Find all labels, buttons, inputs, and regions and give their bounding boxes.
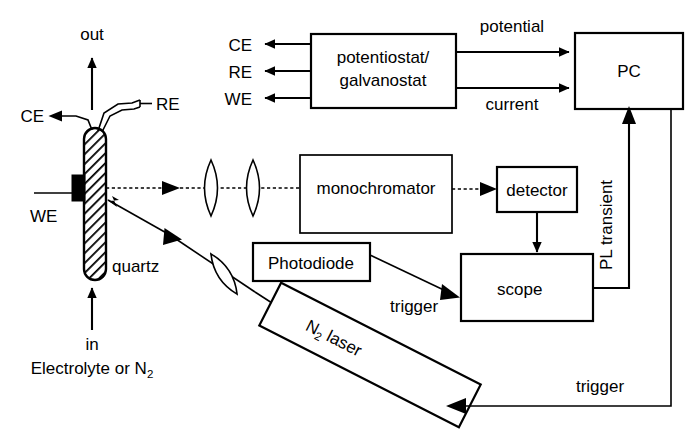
- schematic-svg: out quartz CE RE WE in Electrolyte or N2: [0, 0, 696, 440]
- potentiostat-re-label: RE: [228, 63, 252, 82]
- gas-out-label: out: [80, 25, 104, 44]
- photodiode-trigger-label: trigger: [390, 297, 439, 316]
- potentiostat-label-line1: potentiostat/: [337, 48, 430, 67]
- monochromator-label: monochromator: [316, 179, 435, 198]
- scope-label: scope: [497, 280, 542, 299]
- current-signal-label: current: [486, 95, 539, 114]
- potential-signal-label: potential: [480, 17, 544, 36]
- inlet-medium-label: Electrolyte or N2: [31, 359, 154, 380]
- inlet-medium-subscript: 2: [147, 368, 153, 380]
- figure-canvas: out quartz CE RE WE in Electrolyte or N2: [0, 0, 696, 440]
- potentiostat-we-label: WE: [225, 90, 252, 109]
- potentiostat-ce-label: CE: [228, 36, 252, 55]
- photodiode-label: Photodiode: [268, 254, 354, 273]
- working-electrode-block: [72, 175, 85, 201]
- inlet-medium-text: Electrolyte or N: [31, 359, 147, 378]
- quartz-cell-body: [84, 128, 106, 280]
- pc-trigger-label: trigger: [576, 377, 625, 396]
- pl-transient-label: PL transient: [597, 180, 616, 270]
- working-electrode-label: WE: [30, 207, 57, 226]
- detector-label: detector: [506, 181, 568, 200]
- gas-in-label: in: [85, 335, 98, 354]
- scope-group: scope: [461, 254, 593, 321]
- pc-label: PC: [617, 62, 641, 81]
- quartz-label: quartz: [112, 257, 159, 276]
- counter-electrode-label: CE: [20, 107, 44, 126]
- potentiostat-label-line2: galvanostat: [340, 71, 427, 90]
- reference-electrode-label: RE: [156, 95, 180, 114]
